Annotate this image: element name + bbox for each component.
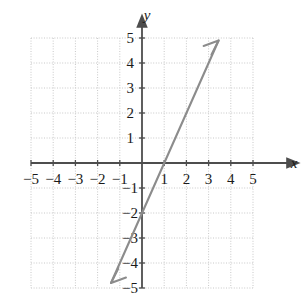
- x-tick-label: 5: [249, 171, 257, 187]
- y-tick-label: 5: [127, 30, 135, 46]
- x-tick-label: 3: [205, 171, 213, 187]
- x-tick-label: −4: [45, 171, 61, 187]
- axes: [31, 26, 288, 288]
- y-axis-label: y: [142, 7, 151, 23]
- y-tick-label: −2: [122, 205, 138, 221]
- x-tick-label: −3: [67, 171, 83, 187]
- x-tick-label: −5: [23, 171, 39, 187]
- cartesian-graph: −5 −4 −3 −2 −1 1 2 3 4 5 5 4 3 2 1 −1 −2…: [0, 0, 305, 298]
- y-tick-label: −5: [122, 280, 138, 296]
- y-tick-label: 2: [127, 105, 135, 121]
- x-tick-label: −2: [90, 171, 106, 187]
- plotted-line-series: [111, 41, 219, 284]
- x-tick-label: 1: [160, 171, 168, 187]
- x-tick-labels: −5 −4 −3 −2 −1 1 2 3 4 5: [23, 171, 257, 187]
- y-tick-label: 1: [127, 130, 135, 146]
- y-tick-label: 3: [127, 80, 135, 96]
- linear-function-line: [111, 41, 219, 284]
- y-tick-label: 4: [127, 55, 135, 71]
- coordinate-plane-figure: −5 −4 −3 −2 −1 1 2 3 4 5 5 4 3 2 1 −1 −2…: [0, 0, 305, 298]
- y-tick-label: −1: [122, 180, 138, 196]
- x-axis-label: x: [290, 155, 298, 171]
- x-tick-label: 4: [227, 171, 235, 187]
- x-tick-label: 2: [183, 171, 191, 187]
- y-tick-label: −4: [122, 255, 138, 271]
